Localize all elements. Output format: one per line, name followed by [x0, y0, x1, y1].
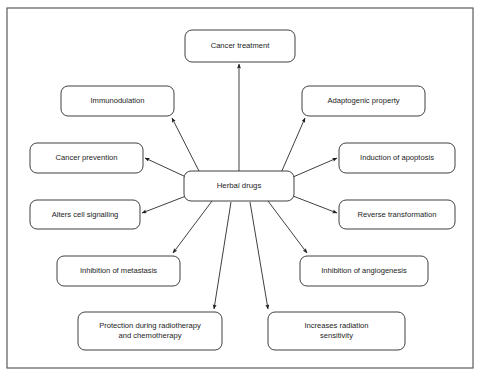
node-induction-of-apoptosis[interactable]: Induction of apoptosis	[339, 143, 455, 173]
node-label: Reverse transformation	[358, 210, 437, 219]
node-increases-radiation-sensitivity[interactable]: Increases radiationsensitivity	[268, 312, 405, 350]
node-label: and chemotherapy	[119, 331, 182, 340]
node-adaptogenic-property[interactable]: Adaptogenic property	[302, 86, 425, 116]
node-label: Inhibition of metastasis	[80, 266, 157, 275]
node-inhibition-of-angiogenesis[interactable]: Inhibition of angiogenesis	[300, 256, 428, 286]
diagram-canvas: Herbal drugsCancer treatmentImmunodulati…	[0, 0, 480, 376]
node-alters-cell-signalling[interactable]: Alters cell signalling	[30, 200, 140, 229]
node-label: Cancer prevention	[55, 153, 117, 162]
node-label: sensitivity	[320, 331, 353, 340]
node-label: Induction of apoptosis	[360, 153, 434, 162]
node-cancer-prevention[interactable]: Cancer prevention	[30, 143, 143, 173]
node-immunodulation[interactable]: Immunodulation	[61, 86, 174, 116]
node-label: Immunodulation	[90, 96, 144, 105]
node-reverse-transformation[interactable]: Reverse transformation	[339, 200, 455, 229]
node-cancer-treatment[interactable]: Cancer treatment	[185, 30, 295, 62]
node-label: Adaptogenic property	[327, 96, 399, 105]
node-inhibition-of-metastasis[interactable]: Inhibition of metastasis	[57, 256, 180, 286]
node-herbal-drugs[interactable]: Herbal drugs	[184, 171, 294, 201]
concept-map-diagram: Herbal drugsCancer treatmentImmunodulati…	[0, 0, 480, 376]
node-label: Cancer treatment	[211, 41, 271, 50]
node-protection-during-radiotherapy-and-chemotherapy[interactable]: Protection during radiotherapyand chemot…	[78, 312, 222, 350]
node-label: Inhibition of angiogenesis	[321, 266, 407, 275]
node-label: Alters cell signalling	[52, 210, 119, 219]
node-label: Herbal drugs	[217, 181, 262, 190]
node-label: Increases radiation	[304, 321, 368, 330]
node-label: Protection during radiotherapy	[99, 321, 201, 330]
